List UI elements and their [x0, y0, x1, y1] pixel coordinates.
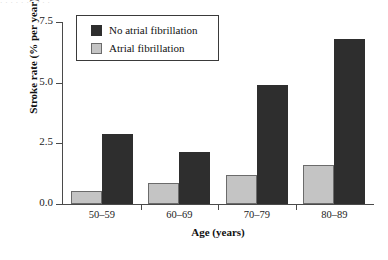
legend-label: Atrial fibrillation [109, 42, 184, 54]
bar-atrial-fibrillation [71, 191, 102, 204]
bar-atrial-fibrillation [226, 175, 257, 204]
bar-atrial-fibrillation [303, 165, 334, 204]
y-axis-tick [56, 204, 63, 205]
y-axis-tick [56, 143, 63, 144]
bar-no-atrial-fibrillation [257, 85, 288, 204]
legend-swatch-icon [91, 25, 102, 36]
stroke-rate-bar-chart: 0.02.55.07.5 50–5960–6970–7980–89 Stroke… [0, 0, 388, 260]
chart-legend: No atrial fibrillation Atrial fibrillati… [76, 15, 219, 61]
y-axis-tick-label: 0.0 [0, 196, 53, 208]
bar-no-atrial-fibrillation [179, 152, 210, 204]
y-axis-tick-label: 2.5 [0, 135, 53, 147]
y-axis-tick [56, 22, 63, 23]
x-axis-tick-label: 50–59 [62, 209, 142, 220]
legend-item-atrial-fibrillation: Atrial fibrillation [91, 40, 218, 56]
x-axis-tick-label: 70–79 [217, 209, 297, 220]
x-axis-title: Age (years) [62, 226, 374, 238]
bar-atrial-fibrillation [148, 183, 179, 204]
x-axis-tick-label: 80–89 [294, 209, 374, 220]
bar-no-atrial-fibrillation [102, 134, 133, 204]
legend-swatch-icon [91, 43, 102, 54]
y-axis-tick [56, 83, 63, 84]
legend-item-no-atrial-fibrillation: No atrial fibrillation [91, 22, 218, 38]
x-axis-tick-label: 60–69 [139, 209, 219, 220]
legend-label: No atrial fibrillation [109, 24, 198, 36]
bar-no-atrial-fibrillation [334, 39, 365, 204]
y-axis-title: Stroke rate (% per year) [27, 0, 39, 136]
